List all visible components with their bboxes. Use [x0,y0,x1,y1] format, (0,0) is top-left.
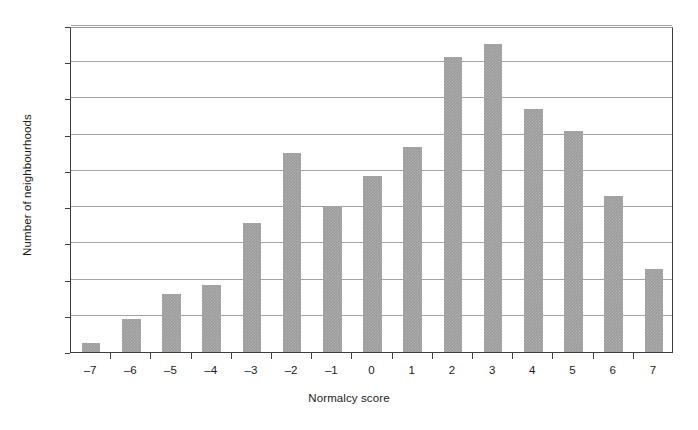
bar [524,109,542,352]
x-axis-tick-mark [311,353,312,359]
x-axis-tick-mark [552,353,553,359]
bar [122,319,140,352]
plot-area [70,27,673,353]
y-axis-title: Number of neighbourhoods [21,35,33,335]
x-axis-tick-label: 7 [633,364,673,376]
bar [403,147,421,352]
gridline [71,25,672,26]
bar-chart: Number of neighbourhoods 020406080100120… [0,0,698,430]
x-axis-tick-mark [512,353,513,359]
x-axis-tick-label: 6 [593,364,633,376]
bar [323,207,341,352]
bar [202,285,220,352]
bar [82,343,100,352]
gridline [71,61,672,62]
bar [162,294,180,352]
x-axis-tick-mark [392,353,393,359]
x-axis-tick-mark [271,353,272,359]
y-axis-tick-mark [65,353,70,354]
x-axis-tick-label: 1 [392,364,432,376]
gridline [71,97,672,98]
x-axis-tick-label: –7 [70,364,110,376]
x-axis-tick-label: –6 [110,364,150,376]
x-axis-tick-mark [150,353,151,359]
x-axis-tick-label: 2 [432,364,472,376]
x-axis-tick-mark [633,353,634,359]
x-axis-tick-label: 0 [352,364,392,376]
x-axis-tick-mark [432,353,433,359]
bar [484,44,502,352]
x-axis-title: Normalcy score [0,392,698,404]
bar [243,223,261,352]
x-axis-tick-mark [472,353,473,359]
bar [444,57,462,352]
x-axis-tick-label: 5 [553,364,593,376]
x-axis-tick-label: 3 [472,364,512,376]
bar [645,269,663,352]
x-axis-tick-label: –5 [151,364,191,376]
x-axis-tick-label: –2 [271,364,311,376]
x-axis-tick-mark [191,353,192,359]
bar [363,176,381,352]
x-axis-tick-mark [351,353,352,359]
x-axis-tick-mark [231,353,232,359]
x-axis-tick-mark [593,353,594,359]
bar [283,153,301,352]
x-axis-tick-label: –3 [231,364,271,376]
bar [604,196,622,352]
x-axis-tick-mark [110,353,111,359]
x-axis-tick-label: –4 [191,364,231,376]
x-axis-tick-label: 4 [512,364,552,376]
bar [564,131,582,352]
x-axis-tick-label: –1 [311,364,351,376]
